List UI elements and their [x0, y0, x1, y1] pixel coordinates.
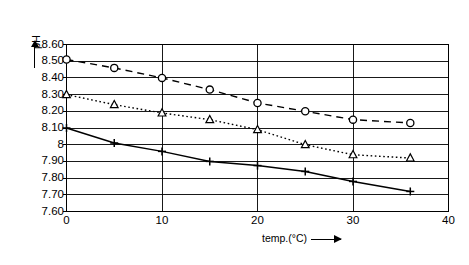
data-point-circle — [206, 86, 213, 93]
data-point-triangle — [206, 115, 214, 122]
series-circle — [63, 56, 414, 127]
data-point-circle — [63, 56, 70, 63]
series-line-triangle — [67, 95, 411, 158]
data-point-circle — [111, 64, 118, 71]
data-point-triangle — [301, 141, 309, 148]
data-point-circle — [349, 116, 356, 123]
data-point-circle — [254, 99, 261, 106]
data-point-triangle — [254, 125, 262, 132]
chart-figure: pH 8.608.508.408.308.208.1087.907.807.70… — [0, 0, 469, 265]
series-triangle — [63, 90, 415, 161]
data-point-triangle — [110, 100, 118, 107]
data-point-circle — [407, 119, 414, 126]
data-point-triangle — [406, 154, 414, 161]
series-line-plus — [67, 128, 411, 191]
series-plus — [63, 124, 415, 195]
data-point-circle — [302, 108, 309, 115]
plot-area — [0, 0, 469, 265]
data-point-triangle — [63, 90, 71, 97]
data-point-circle — [158, 74, 165, 81]
data-point-triangle — [158, 109, 166, 116]
